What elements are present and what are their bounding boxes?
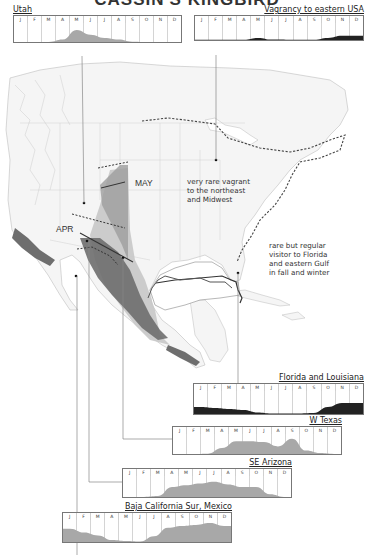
note-line: and eastern Gulf xyxy=(269,259,329,268)
chart-plot-area: JFMAMJJASOND xyxy=(13,15,182,43)
month-axis: JFMAMJJASOND xyxy=(173,427,341,434)
month-tick-label: D xyxy=(168,16,181,23)
chart-title: Utah xyxy=(13,5,32,14)
chart-vagrancy-east: Vagrancy to eastern USAJFMAMJJASOND xyxy=(194,6,364,39)
month-tick-label: F xyxy=(77,513,91,520)
month-tick-label: A xyxy=(105,513,119,520)
month-tick-label: M xyxy=(42,16,56,23)
month-tick-label: N xyxy=(154,16,168,23)
month-tick-label: A xyxy=(237,16,251,23)
month-tick-label: J xyxy=(14,16,28,23)
month-tick-label: A xyxy=(162,513,176,520)
month-tick-label: O xyxy=(140,16,154,23)
month-tick-label: A xyxy=(272,427,286,434)
month-tick-label: A xyxy=(165,469,179,476)
month-tick-label: J xyxy=(84,16,98,23)
month-tick-label: S xyxy=(286,427,300,434)
apr-label: APR xyxy=(56,224,73,234)
month-tick-label: O xyxy=(300,427,314,434)
month-tick-label: D xyxy=(278,469,291,476)
month-axis: JFMAMJJASOND xyxy=(123,469,291,476)
month-tick-label: M xyxy=(251,384,265,391)
chart-plot-area: JFMAMJJASOND xyxy=(194,15,364,41)
month-tick-label: J xyxy=(147,513,161,520)
month-axis: JFMAMJJASOND xyxy=(194,384,363,391)
month-tick-label: M xyxy=(91,513,105,520)
chart-plot-area: JFMAMJJASOND xyxy=(172,426,342,455)
month-tick-label: A xyxy=(112,16,126,23)
chart-plot-area: JFMAMJJASOND xyxy=(193,383,364,415)
month-tick-label: M xyxy=(229,427,243,434)
month-tick-label: J xyxy=(98,16,112,23)
month-tick-label: A xyxy=(293,384,307,391)
month-tick-label: N xyxy=(204,513,218,520)
month-tick-label: J xyxy=(207,469,221,476)
month-tick-label: J xyxy=(243,427,257,434)
month-tick-label: A xyxy=(294,16,308,23)
month-tick-label: N xyxy=(314,427,328,434)
month-tick-label: S xyxy=(176,513,190,520)
month-axis: JFMAMJJASOND xyxy=(63,513,231,520)
month-tick-label: S xyxy=(236,469,250,476)
month-tick-label: F xyxy=(137,469,151,476)
land-north-america xyxy=(6,62,348,368)
chart-se-arizona: SE ArizonaJFMAMJJASOND xyxy=(122,459,292,496)
note-line: very rare vagrant xyxy=(187,177,250,186)
month-tick-label: J xyxy=(194,384,208,391)
month-tick-label: F xyxy=(28,16,42,23)
month-tick-label: J xyxy=(123,469,137,476)
month-tick-label: D xyxy=(350,16,363,23)
month-tick-label: N xyxy=(264,469,278,476)
month-tick-label: M xyxy=(151,469,165,476)
month-tick-label: M xyxy=(179,469,193,476)
month-tick-label: O xyxy=(250,469,264,476)
month-tick-label: S xyxy=(308,16,322,23)
note-line: visitor to Florida xyxy=(269,250,329,259)
note-line: to the northeast xyxy=(187,186,250,195)
month-tick-label: F xyxy=(208,384,222,391)
month-tick-label: A xyxy=(56,16,70,23)
month-tick-label: J xyxy=(257,427,271,434)
month-axis: JFMAMJJASOND xyxy=(195,16,363,23)
month-tick-label: N xyxy=(336,16,350,23)
chart-florida-louisiana: Florida and LouisianaJFMAMJJASOND xyxy=(193,374,364,413)
chart-title: W Texas xyxy=(309,416,342,425)
month-tick-label: D xyxy=(218,513,231,520)
note-line: rare but regular xyxy=(269,241,329,250)
month-tick-label: J xyxy=(195,16,209,23)
month-tick-label: J xyxy=(63,513,77,520)
month-tick-label: M xyxy=(251,16,265,23)
chart-w-texas: W TexasJFMAMJJASOND xyxy=(172,417,342,453)
month-tick-label: M xyxy=(70,16,84,23)
month-tick-label: O xyxy=(322,16,336,23)
chart-plot-area: JFMAMJJASOND xyxy=(122,468,292,498)
month-tick-label: D xyxy=(328,427,341,434)
month-tick-label: S xyxy=(126,16,140,23)
month-tick-label: D xyxy=(350,384,363,391)
month-tick-label: A xyxy=(222,469,236,476)
gulf-visitor-note: rare but regular visitor to Florida and … xyxy=(269,241,329,277)
month-tick-label: F xyxy=(209,16,223,23)
month-tick-label: M xyxy=(201,427,215,434)
chart-title: SE Arizona xyxy=(249,458,292,467)
northeast-vagrant-note: very rare vagrant to the northeast and M… xyxy=(187,177,250,204)
month-tick-label: O xyxy=(322,384,336,391)
month-tick-label: M xyxy=(119,513,133,520)
month-axis: JFMAMJJASOND xyxy=(14,16,181,23)
month-tick-label: J xyxy=(133,513,147,520)
hispaniola xyxy=(282,312,305,320)
month-tick-label: J xyxy=(173,427,187,434)
chart-title: Baja California Sur, Mexico xyxy=(125,502,232,511)
month-tick-label: J xyxy=(265,16,279,23)
month-tick-label: J xyxy=(193,469,207,476)
month-tick-label: J xyxy=(279,16,293,23)
month-tick-label: N xyxy=(336,384,350,391)
month-tick-label: F xyxy=(187,427,201,434)
month-tick-label: J xyxy=(279,384,293,391)
chart-title: Vagrancy to eastern USA xyxy=(264,5,364,14)
note-line: and Midwest xyxy=(187,195,250,204)
note-line: in fall and winter xyxy=(269,268,329,277)
may-label: MAY xyxy=(135,178,153,188)
chart-title: Florida and Louisiana xyxy=(279,373,364,382)
chart-utah: UtahJFMAMJJASOND xyxy=(13,6,182,41)
